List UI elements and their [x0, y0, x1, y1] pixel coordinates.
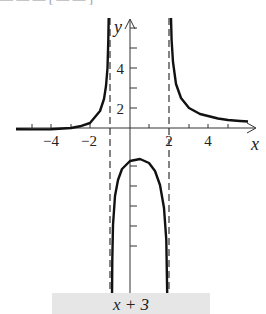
caption-box: x + 3 [52, 293, 210, 314]
x-tick-label-4: 4 [204, 133, 212, 149]
x-axis-label: x [250, 134, 259, 154]
curve-left-branch [16, 18, 109, 129]
x-tick-label-neg2: −2 [81, 133, 97, 149]
function-graph: −4 −2 2 4 2 4 x y [0, 0, 266, 314]
y-ticks [130, 28, 137, 246]
curve-middle-branch [112, 159, 167, 300]
curve-right-branch [171, 18, 248, 122]
y-axis-label: y [112, 17, 122, 37]
x-tick-label-2: 2 [165, 133, 173, 149]
y-tick-label-4: 4 [117, 61, 125, 77]
y-tick-label-2: 2 [117, 101, 125, 117]
x-tick-label-neg4: −4 [43, 133, 59, 149]
caption-formula-numerator: x + 3 [52, 295, 210, 314]
